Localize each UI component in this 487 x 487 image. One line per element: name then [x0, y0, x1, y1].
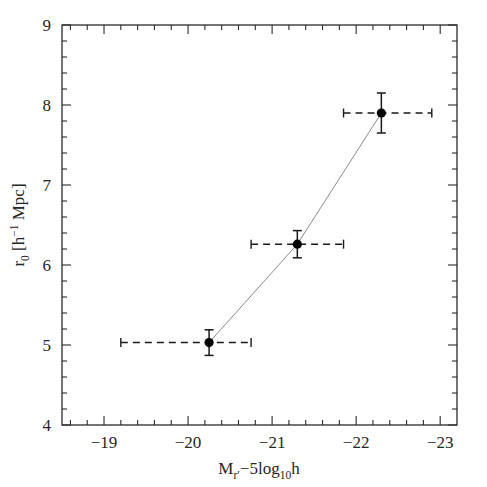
- x-axis-title: Mr′−5log10h: [218, 459, 300, 481]
- scatter-plot: −19−20−21−22−23 456789 Mr′−5log10h r0 [h…: [0, 0, 487, 487]
- x-tick-label: −22: [343, 433, 370, 452]
- figure-container: −19−20−21−22−23 456789 Mr′−5log10h r0 [h…: [0, 0, 487, 487]
- y-tick-label: 6: [43, 256, 52, 275]
- y-error-bars: [205, 93, 386, 355]
- y-axis-tick-labels: 456789: [43, 16, 52, 435]
- data-point-marker: [293, 240, 302, 249]
- x-axis-ticks: [70, 25, 440, 425]
- y-axis-title: r0 [h−1 Mpc]: [8, 183, 31, 266]
- data-point-marker: [377, 108, 386, 117]
- x-tick-label: −20: [175, 433, 202, 452]
- data-point-marker: [204, 338, 213, 347]
- x-axis-tick-labels: −19−20−21−22−23: [91, 433, 454, 452]
- data-point-markers: [204, 108, 385, 347]
- x-tick-label: −21: [259, 433, 286, 452]
- x-tick-label: −23: [427, 433, 454, 452]
- y-tick-label: 4: [43, 416, 52, 435]
- y-tick-label: 9: [43, 16, 52, 35]
- data-connecting-line: [209, 113, 381, 343]
- y-tick-label: 7: [43, 176, 52, 195]
- x-bin-width-bars: [121, 109, 432, 348]
- x-tick-label: −19: [91, 433, 118, 452]
- y-tick-label: 8: [43, 96, 52, 115]
- y-tick-label: 5: [43, 336, 52, 355]
- plot-frame: [62, 25, 457, 425]
- y-axis-ticks: [62, 25, 457, 425]
